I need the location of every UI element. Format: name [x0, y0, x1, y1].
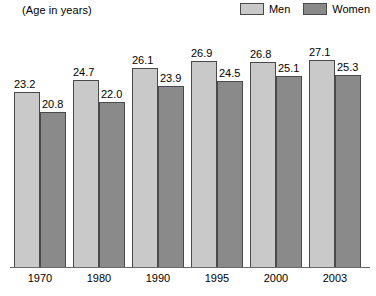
legend-entry-men: Men [240, 3, 290, 15]
value-label-women-1980: 22.0 [101, 89, 122, 100]
bar-group: 27.125.3 [309, 26, 361, 268]
bar-women-1995 [217, 81, 243, 268]
chart-legend: Men Women [240, 3, 370, 15]
value-label-women-1995: 24.5 [219, 68, 240, 79]
bar-chart: (Age in years) Men Women 23.220.824.722.… [0, 0, 376, 296]
legend-swatch-women-icon [303, 3, 327, 15]
bar-men-2000 [250, 62, 276, 268]
bar-men-1990 [132, 68, 158, 268]
bar-group: 26.825.1 [250, 26, 302, 268]
value-label-men-1995: 26.9 [191, 48, 212, 59]
bar-men-1980 [73, 80, 99, 268]
bar-group: 24.722.0 [73, 26, 125, 268]
bar-men-1970 [14, 92, 40, 268]
bar-group: 23.220.8 [14, 26, 66, 268]
x-tick-label-2003: 2003 [309, 272, 361, 284]
bar-women-2000 [276, 76, 302, 268]
x-tick-label-1990: 1990 [132, 272, 184, 284]
x-tick-label-2000: 2000 [250, 272, 302, 284]
legend-swatch-men-icon [240, 3, 264, 15]
bar-women-1990 [158, 86, 184, 268]
value-label-men-1970: 23.2 [14, 79, 35, 90]
value-label-women-1990: 23.9 [160, 73, 181, 84]
plot-area: 23.220.824.722.026.123.926.924.526.825.1… [0, 26, 376, 268]
axis-unit-label: (Age in years) [22, 4, 92, 16]
x-axis-line [10, 267, 370, 268]
value-label-women-2000: 25.1 [278, 63, 299, 74]
value-label-women-1970: 20.8 [42, 99, 63, 110]
bar-men-1995 [191, 61, 217, 268]
chart-header: (Age in years) Men Women [0, 0, 376, 26]
value-label-men-1990: 26.1 [132, 55, 153, 66]
x-tick-label-1980: 1980 [73, 272, 125, 284]
legend-label-women: Women [332, 3, 370, 15]
bar-women-1970 [40, 112, 66, 268]
legend-entry-women: Women [303, 3, 370, 15]
value-label-men-2000: 26.8 [250, 49, 271, 60]
bar-group: 26.924.5 [191, 26, 243, 268]
x-axis-tick-labels: 197019801990199520002003 [0, 272, 376, 292]
x-tick-label-1995: 1995 [191, 272, 243, 284]
bar-group: 26.123.9 [132, 26, 184, 268]
value-label-men-2003: 27.1 [309, 47, 330, 58]
bar-women-1980 [99, 102, 125, 268]
bar-men-2003 [309, 60, 335, 268]
value-label-men-1980: 24.7 [73, 67, 94, 78]
legend-label-men: Men [269, 3, 290, 15]
bar-women-2003 [335, 75, 361, 268]
value-label-women-2003: 25.3 [337, 62, 358, 73]
x-tick-label-1970: 1970 [14, 272, 66, 284]
